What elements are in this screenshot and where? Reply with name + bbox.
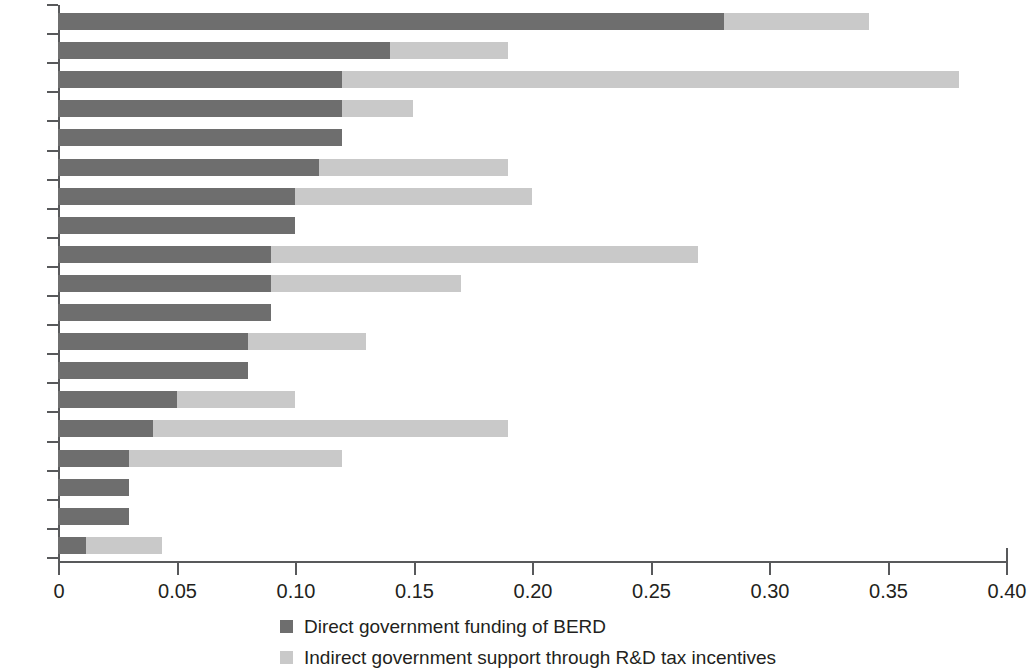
bar-indirect-nor [248,333,367,350]
y-axis-tick [47,237,58,239]
bar-direct-prt [58,450,129,467]
bar-direct-nld [58,420,153,437]
bar-indirect-gbr [271,275,461,292]
legend-label-indirect: Indirect government support through R&D … [304,648,776,667]
bar-row: POL [58,508,1006,525]
x-axis-label: 0.05 [118,579,238,603]
bar-indirect-hrv [86,537,162,554]
bar-direct-est [58,217,295,234]
bar-row: ESP [58,100,1006,117]
y-axis-tick [47,470,58,472]
bar-direct-hun [58,159,319,176]
bar-row: NOR [58,333,1006,350]
y-axis-tick [47,62,58,64]
x-axis-tick [651,561,653,575]
x-axis-tick [414,561,416,575]
bar-direct-svk [58,479,129,496]
y-axis-tick [47,4,58,6]
bar-indirect-fra [342,71,958,88]
x-axis-tick [1006,561,1008,575]
y-axis-tick [47,528,58,530]
bar-direct-dnk [58,391,177,408]
bar-indirect-dnk [177,391,296,408]
y-axis-tick [47,295,58,297]
legend-item-direct: Direct government funding of BERD [280,611,776,642]
x-axis-label: 0.20 [473,579,593,603]
x-axis-tick [769,561,771,575]
x-axis-label: 0.10 [236,579,356,603]
y-axis-tick [47,179,58,181]
plot-area: SVNCZEFRAESPSWEHUNAUTESTBELGBRDEUNORFIND… [58,5,1006,561]
bar-row: DEU [58,304,1006,321]
y-axis-tick [47,441,58,443]
bar-row: GBR [58,275,1006,292]
y-axis-tick [47,382,58,384]
bar-row: AUT [58,188,1006,205]
x-axis-tick [888,561,890,575]
bar-direct-deu [58,304,271,321]
bar-indirect-prt [129,450,342,467]
bar-row: SWE [58,129,1006,146]
bar-indirect-bel [271,246,698,263]
stacked-bar-chart: SVNCZEFRAESPSWEHUNAUTESTBELGBRDEUNORFIND… [0,0,1033,672]
bar-row: FRA [58,71,1006,88]
bar-row: SVK [58,479,1006,496]
y-axis-tick [47,120,58,122]
x-axis-tick [177,561,179,575]
bar-row: FIN [58,362,1006,379]
x-axis-tick [532,561,534,575]
bar-row: HRV [58,537,1006,554]
bar-direct-fin [58,362,248,379]
bar-indirect-hun [319,159,509,176]
bar-indirect-nld [153,420,509,437]
y-axis-tick [47,208,58,210]
x-axis-label: 0.40 [947,579,1033,603]
y-axis-tick [47,324,58,326]
y-axis-tick [47,499,58,501]
x-axis-label: 0 [0,579,119,603]
legend-swatch-direct-icon [280,620,293,633]
bar-direct-fra [58,71,342,88]
bar-direct-bel [58,246,271,263]
bar-direct-cze [58,42,390,59]
bar-row: SVN [58,13,1006,30]
y-axis-tick [47,353,58,355]
bar-direct-pol [58,508,129,525]
x-axis-tick [58,561,60,575]
bar-indirect-svn [724,13,869,30]
bar-direct-esp [58,100,342,117]
legend: Direct government funding of BERD Indire… [280,611,776,672]
y-axis-tick [47,557,58,559]
bar-indirect-esp [342,100,413,117]
legend-item-indirect: Indirect government support through R&D … [280,642,776,672]
bar-direct-hrv [58,537,86,554]
x-axis-label: 0.15 [355,579,475,603]
y-axis-tick [47,150,58,152]
bar-indirect-aut [295,188,532,205]
bar-direct-svn [58,13,724,30]
bar-row: NLD [58,420,1006,437]
x-axis-label: 0.30 [710,579,830,603]
bar-indirect-cze [390,42,509,59]
y-axis-tick [47,91,58,93]
x-axis-label: 0.25 [592,579,712,603]
bar-row: HUN [58,159,1006,176]
bar-row: EST [58,217,1006,234]
bar-row: DNK [58,391,1006,408]
bar-row: PRT [58,450,1006,467]
bar-direct-aut [58,188,295,205]
x-axis-tick [295,561,297,575]
legend-swatch-indirect-icon [280,651,293,664]
y-axis-tick [47,33,58,35]
legend-label-direct: Direct government funding of BERD [304,617,606,636]
bar-row: BEL [58,246,1006,263]
bar-direct-gbr [58,275,271,292]
y-axis-tick [47,266,58,268]
bar-direct-nor [58,333,248,350]
y-axis-tick [47,411,58,413]
x-axis-label: 0.35 [829,579,949,603]
bar-direct-swe [58,129,342,146]
bar-row: CZE [58,42,1006,59]
